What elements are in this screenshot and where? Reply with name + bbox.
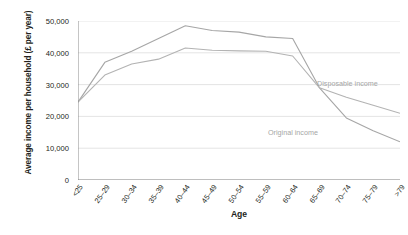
income-by-age-line-chart: Average income per household (£ per year… bbox=[0, 0, 408, 235]
plot-svg bbox=[78, 21, 400, 180]
x-axis-title: Age bbox=[78, 209, 400, 219]
series-annotation-original-income: Original income bbox=[268, 128, 318, 137]
plot-area bbox=[78, 21, 400, 180]
y-axis-tick-labels: 010,00020,00030,00040,00050,000 bbox=[22, 0, 69, 235]
y-axis-tick-label: 10,000 bbox=[25, 144, 69, 153]
y-axis-tick-label: 50,000 bbox=[25, 17, 69, 26]
y-axis-tick-label: 0 bbox=[25, 176, 69, 185]
y-axis-tick-label: 40,000 bbox=[25, 48, 69, 57]
y-axis-tick-label: 30,000 bbox=[25, 80, 69, 89]
axis-lines bbox=[78, 21, 400, 180]
series-annotation-disposable-income: Disposable income bbox=[317, 79, 378, 88]
x-axis-tick-label: >79 bbox=[400, 171, 408, 187]
gridlines bbox=[78, 21, 400, 180]
y-axis-tick-label: 20,000 bbox=[25, 112, 69, 121]
axis-tick-marks bbox=[78, 21, 400, 180]
